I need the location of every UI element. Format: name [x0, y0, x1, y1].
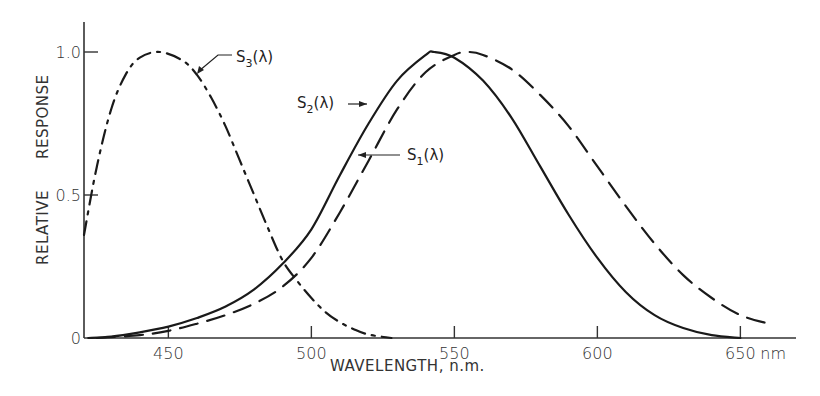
y-tick-label: 0: [71, 329, 81, 348]
x-tick-label: 500: [296, 344, 327, 363]
label-s2: S2(λ): [297, 94, 334, 116]
label-s3: S3(λ): [236, 48, 273, 70]
label-s1: S1(λ): [407, 146, 444, 168]
curve-annotations: S3(λ)S2(λ)S1(λ): [197, 48, 444, 168]
leader-s1-head: [358, 152, 366, 158]
curve-s3: [84, 52, 391, 338]
chart-canvas: 450500550600650nm 00.51.0 S3(λ)S2(λ)S1(λ…: [0, 0, 820, 396]
x-tick-label: 650: [725, 344, 756, 363]
y-axis-title: RELATIVE RESPONSE: [34, 74, 52, 265]
x-tick-label: 450: [153, 344, 184, 363]
svg-text:RELATIVE RESPONSE: RELATIVE RESPONSE: [34, 74, 52, 265]
leader-s2-head: [359, 101, 367, 107]
y-tick-label: 0.5: [56, 186, 81, 205]
x-axis-title: WAVELENGTH, n.m.: [330, 357, 485, 375]
x-unit-label: nm: [760, 344, 786, 363]
y-tick-label: 1.0: [56, 43, 81, 62]
curve-s2: [88, 51, 740, 338]
leader-s3: [199, 55, 232, 71]
curves: [84, 51, 769, 338]
curve-s1: [97, 52, 769, 338]
axes: [84, 22, 796, 338]
x-tick-label: 600: [582, 344, 613, 363]
